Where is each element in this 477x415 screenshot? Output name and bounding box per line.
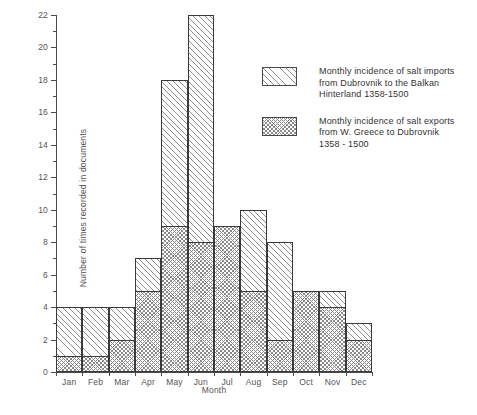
x-tick-jun: [188, 372, 189, 376]
y-tick-14: [51, 145, 56, 146]
y-tick-minor-7: [53, 258, 56, 259]
y-tick-20: [51, 47, 56, 48]
y-tick-label-16: 16: [38, 107, 48, 117]
bar-exports-mar: [109, 340, 135, 372]
legend-item-imports: Monthly incidence of salt imports from D…: [262, 66, 455, 101]
y-tick-label-14: 14: [38, 140, 48, 150]
bar-exports-may: [161, 226, 187, 372]
y-tick-label-8: 8: [43, 237, 48, 247]
y-tick-minor-11: [53, 194, 56, 195]
bar-exports-feb: [82, 356, 108, 372]
x-tick-label-sep: Sep: [272, 377, 288, 387]
x-tick-jan: [56, 372, 57, 376]
y-tick-8: [51, 242, 56, 243]
y-tick-minor-9: [53, 226, 56, 227]
x-tick-label-jul: Jul: [221, 377, 232, 387]
y-tick-label-22: 22: [38, 10, 48, 20]
y-tick-12: [51, 177, 56, 178]
y-tick-label-20: 20: [38, 42, 48, 52]
legend-swatch-exports-icon: [262, 117, 297, 136]
x-tick-sep: [267, 372, 268, 376]
y-tick-18: [51, 80, 56, 81]
x-tick-label-aug: Aug: [246, 377, 262, 387]
x-tick-label-jun: Jun: [194, 377, 208, 387]
y-tick-6: [51, 275, 56, 276]
x-tick-label-dec: Dec: [351, 377, 367, 387]
y-tick-label-4: 4: [43, 302, 48, 312]
bar-exports-jun: [188, 242, 214, 372]
legend-label-imports: Monthly incidence of salt imports from D…: [319, 66, 455, 101]
x-tick-label-may: May: [166, 377, 183, 387]
x-tick-label-oct: Oct: [299, 377, 313, 387]
bar-exports-nov: [319, 307, 345, 372]
y-tick-16: [51, 112, 56, 113]
y-tick-label-2: 2: [43, 335, 48, 345]
x-tick-apr: [135, 372, 136, 376]
x-tick-may: [161, 372, 162, 376]
x-tick-label-jan: Jan: [62, 377, 76, 387]
bar-exports-jul: [214, 226, 240, 372]
x-tick-label-mar: Mar: [114, 377, 129, 387]
y-tick-10: [51, 210, 56, 211]
x-tick-label-feb: Feb: [88, 377, 103, 387]
y-tick-label-0: 0: [43, 367, 48, 377]
y-tick-minor-17: [53, 96, 56, 97]
y-tick-label-6: 6: [43, 270, 48, 280]
y-tick-minor-5: [53, 291, 56, 292]
y-tick-label-12: 12: [38, 172, 48, 182]
x-tick-nov: [319, 372, 320, 376]
bar-exports-apr: [135, 291, 161, 372]
legend-label-exports: Monthly incidence of salt exports from W…: [319, 116, 455, 151]
x-tick-label-nov: Nov: [325, 377, 341, 387]
bar-exports-aug: [240, 291, 266, 372]
bar-exports-oct: [293, 291, 319, 372]
bar-exports-jan: [56, 356, 82, 372]
bar-exports-dec: [346, 340, 372, 372]
y-tick-label-10: 10: [38, 205, 48, 215]
y-tick-minor-15: [53, 129, 56, 130]
y-tick-minor-13: [53, 161, 56, 162]
x-tick-oct: [293, 372, 294, 376]
x-tick-aug: [240, 372, 241, 376]
x-tick-jul: [214, 372, 215, 376]
legend-item-exports: Monthly incidence of salt exports from W…: [262, 116, 455, 151]
legend-swatch-imports-icon: [262, 67, 297, 86]
y-tick-minor-19: [53, 64, 56, 65]
y-tick-minor-21: [53, 31, 56, 32]
x-tick-mar: [109, 372, 110, 376]
bar-exports-sep: [267, 340, 293, 372]
x-tick-feb: [82, 372, 83, 376]
legend: Monthly incidence of salt imports from D…: [262, 66, 455, 166]
y-tick-label-18: 18: [38, 75, 48, 85]
y-tick-22: [51, 15, 56, 16]
x-tick-end: [372, 372, 373, 376]
histogram-chart: Number of times recorded in documents Mo…: [0, 0, 477, 415]
x-tick-label-apr: Apr: [141, 377, 155, 387]
x-tick-dec: [346, 372, 347, 376]
